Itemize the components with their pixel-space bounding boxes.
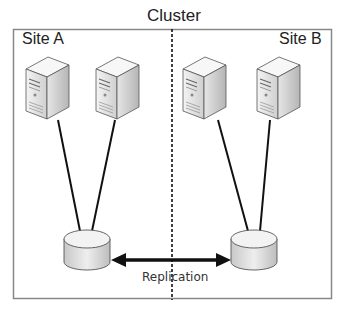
- replication-label: Replication: [142, 270, 208, 284]
- replication-arrow-icon: [111, 253, 231, 267]
- server-icon-b1: [183, 57, 226, 119]
- server-icon-b2: [257, 57, 300, 119]
- cluster-title: Cluster: [0, 6, 348, 26]
- storage-icon-b: [231, 230, 277, 270]
- storage-icon-a: [64, 230, 110, 270]
- server-icon-a1: [26, 57, 69, 119]
- site-a-label: Site A: [22, 30, 64, 48]
- server-icon-a2: [96, 57, 139, 119]
- connection-lines: [58, 120, 270, 231]
- site-b-label: Site B: [279, 30, 322, 48]
